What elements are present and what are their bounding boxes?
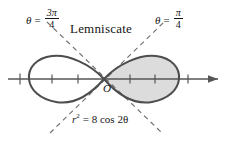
figure-title: Lemniscate	[70, 22, 132, 35]
fraction-numerator-right: π	[174, 8, 183, 19]
theta-symbol-left: θ	[26, 15, 31, 26]
equals-sign-right: =	[163, 15, 169, 26]
equation-body: = 8 cos 2θ	[83, 113, 128, 125]
equation-exponent: 2	[76, 112, 80, 120]
fraction-pi-over-four: π4	[174, 8, 183, 30]
curve-equation-label: r2= 8 cos 2θ	[72, 113, 128, 125]
theta-symbol-right: θ	[155, 15, 160, 26]
origin-label: O	[103, 83, 111, 94]
fraction-denominator-right: 4	[174, 19, 183, 30]
fraction-denominator-left: 4	[45, 19, 59, 30]
label-theta-pi-over-four: θ=π4	[155, 9, 184, 31]
lemniscate-figure: θ=3π4 θ=π4 Lemniscate O r2= 8 cos 2θ	[0, 0, 234, 141]
equals-sign-left: =	[34, 15, 40, 26]
polar-axis-arrowhead	[208, 75, 218, 83]
fraction-three-pi-over-four: 3π4	[45, 8, 59, 30]
label-theta-three-pi-over-four: θ=3π4	[26, 9, 60, 31]
fraction-numerator-left: 3π	[45, 8, 59, 19]
